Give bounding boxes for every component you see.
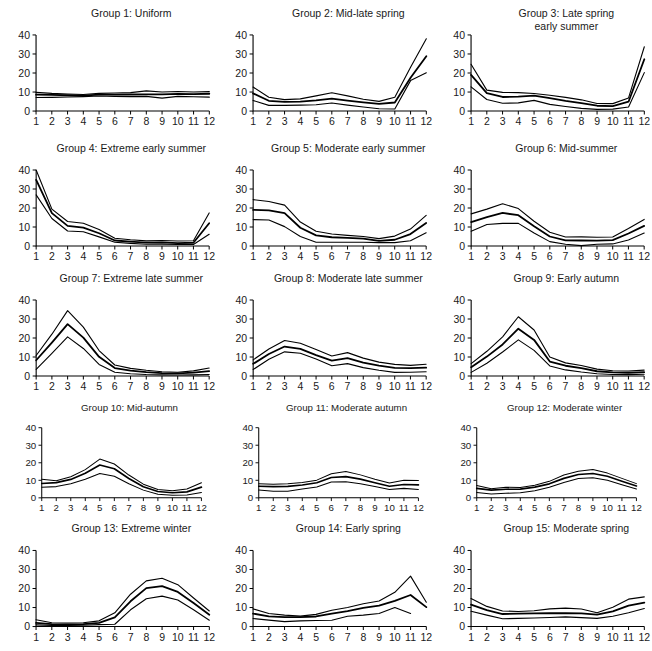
y-tick-label: 10 xyxy=(453,351,465,363)
series-group xyxy=(36,578,209,625)
series-line-lower xyxy=(253,220,426,243)
y-tick-label: 30 xyxy=(18,563,30,575)
y-tick-label: 40 xyxy=(236,294,248,306)
x-axis-ticks: 123456789101112 xyxy=(468,246,650,262)
x-tick-label: 3 xyxy=(285,502,290,513)
y-axis-ticks: 010203040 xyxy=(18,294,36,382)
x-tick-label: 12 xyxy=(203,631,215,643)
x-tick-label: 10 xyxy=(607,631,619,643)
x-tick-label: 7 xyxy=(128,250,134,262)
chart-panel-4: Group 4: Extreme early summer01020304012… xyxy=(0,140,217,270)
x-tick-label: 9 xyxy=(159,631,165,643)
y-axis-ticks: 010203040 xyxy=(243,422,259,503)
x-tick-label: 10 xyxy=(389,631,401,643)
x-tick-label: 12 xyxy=(421,380,433,392)
x-tick-label: 9 xyxy=(373,502,378,513)
x-tick-label: 11 xyxy=(188,380,199,392)
x-tick-label: 12 xyxy=(203,115,215,127)
x-tick-label: 9 xyxy=(376,115,382,127)
y-axis-ticks: 010203040 xyxy=(236,164,254,252)
y-axis-ticks: 010203040 xyxy=(453,294,471,382)
chart-panel-5: Group 5: Moderate early summer0102030401… xyxy=(217,140,434,270)
x-tick-label: 8 xyxy=(141,502,146,513)
y-tick-label: 40 xyxy=(453,164,465,176)
series-group xyxy=(36,170,209,244)
panel-title-line: Group 9: Early autumn xyxy=(513,272,619,284)
x-tick-label: 5 xyxy=(531,631,537,643)
x-tick-label: 8 xyxy=(578,115,584,127)
series-line-median xyxy=(253,56,426,104)
x-tick-label: 10 xyxy=(607,380,619,392)
x-tick-label: 11 xyxy=(405,250,416,262)
series-line-lower xyxy=(36,596,209,625)
y-tick-label: 30 xyxy=(453,563,465,575)
series-group xyxy=(42,459,202,495)
x-tick-label: 2 xyxy=(484,380,490,392)
y-tick-label: 30 xyxy=(453,313,465,325)
y-tick-label: 10 xyxy=(18,86,30,98)
x-tick-label: 6 xyxy=(329,631,335,643)
x-axis-ticks: 123456789101112 xyxy=(33,246,215,262)
panel-title: Group 15: Moderate spring xyxy=(503,522,629,534)
y-tick-label: 20 xyxy=(18,67,30,79)
series-line-median xyxy=(36,180,209,243)
x-tick-label: 4 xyxy=(515,631,521,643)
chart-panel-3: Group 3: Late springearly summer01020304… xyxy=(435,0,652,140)
y-tick-label: 20 xyxy=(18,202,30,214)
y-tick-label: 30 xyxy=(460,440,471,451)
series-line-upper xyxy=(253,39,426,102)
x-tick-label: 6 xyxy=(112,250,118,262)
chart-panel-12: Group 12: Moderate winter010203040123456… xyxy=(435,400,652,520)
x-tick-label: 9 xyxy=(590,502,595,513)
small-multiples-figure: Group 1: Uniform010203040123456789101112… xyxy=(0,0,652,651)
x-tick-label: 11 xyxy=(182,502,192,513)
x-tick-label: 4 xyxy=(80,250,86,262)
series-line-lower xyxy=(36,195,209,245)
x-tick-label: 9 xyxy=(594,631,600,643)
x-tick-label: 3 xyxy=(282,115,288,127)
x-tick-label: 2 xyxy=(266,380,272,392)
y-tick-label: 10 xyxy=(18,221,30,233)
series-line-lower xyxy=(253,352,426,373)
series-line-upper xyxy=(253,200,426,239)
series-group xyxy=(471,317,644,375)
y-axis-ticks: 010203040 xyxy=(453,544,471,632)
series-line-median xyxy=(471,213,644,241)
x-tick-label: 3 xyxy=(282,380,288,392)
x-tick-label: 12 xyxy=(203,380,215,392)
x-tick-label: 4 xyxy=(298,250,304,262)
x-tick-label: 11 xyxy=(405,631,416,643)
x-tick-label: 9 xyxy=(159,380,165,392)
x-tick-label: 5 xyxy=(314,502,319,513)
panel-title-line: Group 7: Extreme late summer xyxy=(60,272,204,284)
y-tick-label: 10 xyxy=(25,475,36,486)
y-tick-label: 20 xyxy=(453,332,465,344)
panel-title: Group 7: Extreme late summer xyxy=(60,272,204,284)
y-tick-label: 40 xyxy=(453,544,465,556)
series-line-upper xyxy=(476,469,636,488)
panel-title: Group 8: Moderate late summer xyxy=(274,272,423,284)
x-tick-label: 5 xyxy=(532,502,537,513)
x-tick-label: 10 xyxy=(602,502,613,513)
x-tick-label: 8 xyxy=(578,250,584,262)
chart-panel-10: Group 10: Mid-autumn01020304012345678910… xyxy=(0,400,217,520)
y-tick-label: 20 xyxy=(453,582,465,594)
series-line-median xyxy=(471,329,644,373)
x-axis-ticks: 123456789101112 xyxy=(33,627,215,643)
x-tick-label: 4 xyxy=(80,115,86,127)
x-tick-label: 9 xyxy=(594,380,600,392)
y-tick-label: 30 xyxy=(25,440,36,451)
y-tick-label: 0 xyxy=(248,492,254,503)
x-tick-label: 12 xyxy=(638,115,650,127)
panel-title: Group 6: Mid-summer xyxy=(515,142,618,154)
x-tick-label: 11 xyxy=(188,250,199,262)
y-tick-label: 10 xyxy=(243,475,254,486)
x-tick-label: 11 xyxy=(617,502,627,513)
x-axis-ticks: 123456789101112 xyxy=(250,627,432,643)
series-line-median xyxy=(471,59,644,106)
x-tick-label: 5 xyxy=(313,380,319,392)
x-axis-ticks: 123456789101112 xyxy=(33,376,215,392)
x-tick-label: 9 xyxy=(594,115,600,127)
x-tick-label: 1 xyxy=(256,502,261,513)
series-line-upper xyxy=(42,459,202,491)
